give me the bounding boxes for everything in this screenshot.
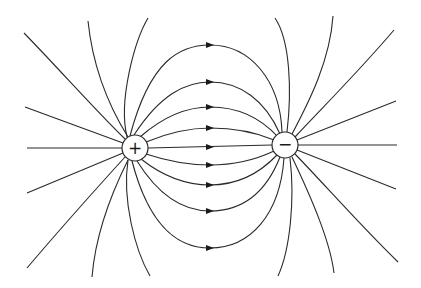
arrow-icon (206, 144, 214, 150)
field-line-bottom-2 (141, 155, 277, 185)
field-line-top-4 (146, 128, 274, 142)
arrow-icon (206, 208, 214, 214)
arrow-icon (206, 125, 214, 131)
plus-sign-icon: + (122, 135, 148, 161)
arrow-icon (206, 79, 214, 85)
field-line-outer-bot (127, 160, 150, 276)
field-line-outer-top-r (275, 18, 289, 132)
negative-incoming-lines (292, 16, 398, 273)
field-line-bottom-1 (146, 151, 274, 165)
arrow-icon (206, 42, 214, 48)
arrow-icon (206, 162, 214, 168)
field-line-top-3 (140, 107, 278, 137)
arrow-icon (206, 182, 214, 188)
arrow-icon (206, 104, 214, 110)
field-line-outer-top (124, 18, 148, 137)
arrow-icon (206, 245, 214, 251)
minus-sign-icon: − (272, 131, 298, 157)
field-line-outer-bot-r (278, 158, 292, 276)
field-line-bottom-4 (132, 158, 284, 248)
field-line-top-1 (130, 45, 282, 136)
positive-outgoing-lines (24, 21, 128, 277)
dipole-field-diagram (0, 0, 421, 288)
